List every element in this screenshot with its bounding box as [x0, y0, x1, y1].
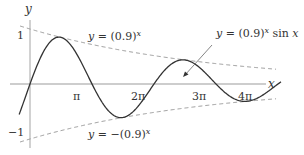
- x-axis-label: x: [268, 77, 275, 91]
- x-tick-pi: π: [73, 90, 80, 103]
- lower-envelope-label: y = −(0.9)x: [87, 127, 151, 141]
- chart-figure: y x 1 −1 π 2π 3π 4π y = (0.9)x y = (0.9)…: [0, 0, 304, 155]
- y-tick-neg1: −1: [8, 126, 24, 139]
- annotation-arrow: [185, 45, 212, 75]
- upper-envelope-label: y = (0.9)x: [87, 29, 142, 43]
- damped-sine-curve: [19, 37, 281, 118]
- curve-label: y = (0.9)x sin x: [215, 26, 299, 40]
- y-axis-label: y: [24, 2, 32, 16]
- x-tick-2pi: 2π: [131, 90, 145, 103]
- x-tick-4pi: 4π: [238, 90, 252, 103]
- x-tick-3pi: 3π: [192, 90, 206, 103]
- y-tick-1: 1: [17, 29, 24, 42]
